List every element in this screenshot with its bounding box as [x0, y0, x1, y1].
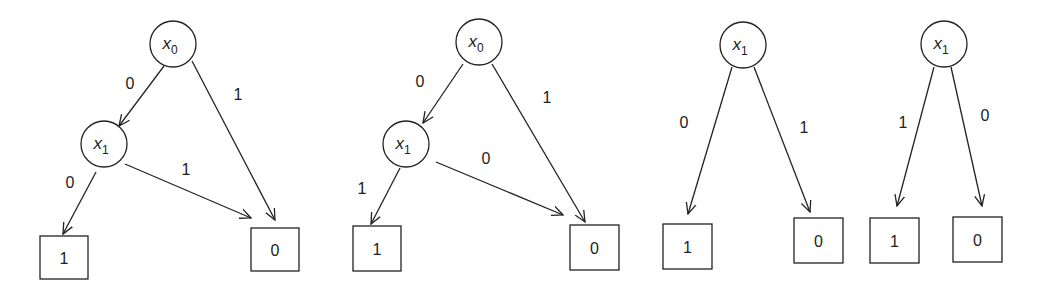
terminal-value: 1	[60, 250, 69, 267]
terminal-value: 0	[590, 240, 599, 257]
edge-label: 0	[416, 73, 425, 90]
terminal-node: 0	[570, 225, 619, 270]
edge-arrow	[492, 64, 585, 222]
variable-node: x1	[81, 121, 127, 167]
variable-node: x0	[456, 19, 502, 65]
bdd-2: 0110x0x110	[353, 19, 619, 271]
terminal-node: 1	[40, 236, 88, 279]
edge-label: 1	[182, 161, 191, 178]
terminal-node: 1	[870, 218, 919, 263]
variable-node: x1	[383, 121, 429, 167]
edge-label: 1	[899, 114, 908, 131]
terminal-node: 1	[353, 226, 401, 271]
terminal-value: 1	[890, 233, 899, 250]
edge-arrow	[688, 67, 732, 214]
terminal-value: 0	[271, 242, 280, 259]
terminal-value: 1	[683, 239, 692, 256]
edge-label: 0	[482, 150, 491, 167]
edge-label: 1	[800, 119, 809, 136]
bdd-1: 0101x0x110	[40, 21, 299, 279]
terminal-node: 1	[663, 224, 712, 269]
diagrams-root: 0101x0x1100110x0x11001x11010x110	[40, 19, 1002, 279]
terminal-node: 0	[251, 228, 299, 271]
edge-arrow	[754, 67, 810, 212]
terminal-node: 0	[953, 217, 1002, 262]
edge-label: 1	[358, 180, 367, 197]
terminal-node: 0	[794, 218, 843, 263]
bdd-3: 01x110	[663, 22, 843, 269]
edge-label: 1	[234, 86, 243, 103]
edge-label: 0	[981, 107, 990, 124]
edge-label: 0	[66, 174, 75, 191]
terminal-value: 0	[814, 233, 823, 250]
variable-node: x0	[150, 21, 196, 67]
bdd-diagram-canvas: 0101x0x1100110x0x11001x11010x110	[0, 0, 1037, 291]
edge-arrow	[951, 67, 982, 206]
edge-arrow	[192, 61, 275, 220]
variable-node: x1	[720, 22, 766, 68]
edge-arrow	[371, 168, 400, 224]
edge-arrow	[897, 67, 934, 206]
edge-label: 0	[126, 75, 135, 92]
terminal-value: 0	[973, 232, 982, 249]
edge-arrow	[436, 162, 563, 215]
edge-label: 1	[543, 89, 552, 106]
terminal-value: 1	[373, 241, 382, 258]
variable-node: x1	[921, 21, 967, 67]
edge-arrow	[423, 64, 463, 123]
bdd-4: 10x110	[870, 21, 1002, 263]
edge-label: 0	[680, 114, 689, 131]
